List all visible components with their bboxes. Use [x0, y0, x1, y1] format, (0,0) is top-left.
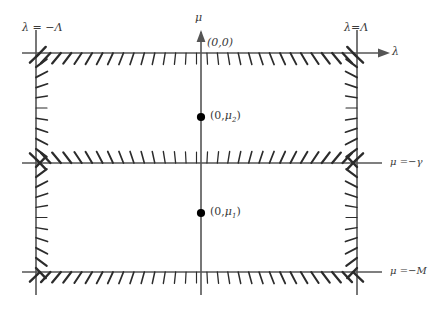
lambda-axis-label: λ: [392, 46, 399, 57]
hatch-tick: [36, 84, 48, 88]
hatch-tick: [280, 53, 285, 64]
hatch-tick: [259, 272, 263, 284]
hatch-tick: [152, 53, 155, 65]
hatch-tick: [185, 272, 186, 283]
hatch-tick: [36, 149, 47, 157]
hatch-tick: [52, 53, 61, 63]
hatch-tick: [36, 59, 47, 67]
hatch-tick: [97, 152, 103, 163]
hatch-tick: [185, 152, 186, 163]
mu-axis-arrowhead: [197, 30, 206, 42]
hatch-tick: [332, 153, 341, 163]
hatch-tick: [36, 139, 47, 145]
hatch-tick: [301, 152, 308, 163]
mu-axis-label: μ: [195, 12, 202, 23]
upper-point-label-prefix: (0,: [210, 109, 225, 122]
hatch-tick: [280, 272, 285, 283]
hatch-tick: [346, 71, 357, 77]
origin-label: (0,0): [207, 37, 233, 48]
hatch-tick: [174, 272, 175, 283]
lower-point-label-prefix: (0,: [210, 205, 225, 218]
upper-point-label-symbol: μ: [225, 109, 232, 122]
hatch-tick: [52, 272, 61, 282]
upper-point-dot: [197, 113, 205, 121]
hatch-tick: [52, 153, 61, 163]
hatch-tick: [36, 181, 47, 187]
hatch-tick: [217, 53, 218, 64]
hatch-tick: [311, 272, 318, 283]
hatch-tick: [259, 151, 263, 163]
hatch-tick: [346, 96, 357, 98]
hatch-tick: [63, 53, 71, 64]
hatch-tick: [346, 149, 357, 157]
hatch-tick: [36, 206, 47, 208]
hatch-tick: [332, 272, 341, 282]
hatch-tick: [332, 53, 341, 63]
hatch-tick: [249, 53, 252, 65]
hatch-tick: [322, 272, 330, 283]
hatch-tick: [322, 152, 330, 163]
hatch-tick: [346, 169, 357, 177]
boundary-lines: [22, 30, 382, 295]
hatch-tick: [63, 152, 71, 163]
hatch-tick: [322, 53, 330, 64]
hatch-tick: [346, 206, 357, 208]
hatch-tick: [119, 151, 124, 163]
hatch-tick: [249, 272, 252, 284]
left-boundary-label: λ = −Λ: [22, 22, 62, 33]
hatch-tick: [30, 272, 40, 282]
hatch-tick: [238, 151, 241, 163]
hatch-tick: [97, 272, 103, 283]
hatch-tick: [207, 272, 208, 283]
hatch-tick: [217, 152, 218, 163]
upper-point-label: (0,μ2): [210, 110, 241, 124]
hatch-tick: [346, 139, 357, 145]
hatch-tick: [36, 193, 48, 197]
hatch-tick: [347, 47, 357, 57]
hatch-tick: [185, 53, 186, 64]
hatch-tick: [36, 228, 47, 230]
hatch-tick: [36, 258, 47, 266]
hatch-tick: [280, 152, 285, 163]
hatch-tick: [228, 272, 230, 283]
hatch-tick: [345, 193, 357, 197]
hatch-tick: [108, 53, 113, 64]
hatch-tick: [346, 118, 357, 120]
hatch-tick: [163, 272, 165, 283]
hatch-tick: [163, 53, 165, 64]
hatch-tick: [301, 272, 308, 283]
hatch-tick: [290, 53, 296, 64]
hatch-tick: [345, 84, 357, 88]
hatch-tick: [86, 152, 93, 163]
hatch-tick: [290, 272, 296, 283]
hatch-tick: [174, 53, 175, 64]
hatch-tick: [346, 248, 357, 254]
hatch-tick: [36, 47, 46, 57]
hatch-tick: [163, 152, 165, 163]
hatch-tick: [36, 96, 47, 98]
hatch-tick: [228, 53, 230, 64]
hatch-tick: [36, 118, 47, 120]
hatch-tick: [130, 151, 134, 163]
hatch-tick: [259, 53, 263, 65]
gamma-boundary-label: μ =−γ: [390, 157, 422, 167]
hatch-tick: [36, 128, 48, 132]
hatch-tick: [141, 272, 144, 284]
figure-canvas: λ = −Λ λ=Λ μ λ (0,0) (0,μ2) (0,μ1) μ =−γ…: [0, 0, 437, 309]
hatch-tick: [249, 151, 252, 163]
upper-point-label-suffix: ): [236, 109, 240, 122]
bottom-boundary-label: μ =−M: [390, 266, 427, 276]
hatch-tick: [74, 152, 81, 163]
hatch-tick: [346, 181, 357, 187]
hatch-tick: [119, 272, 124, 284]
hatch-tick: [108, 272, 113, 283]
hatch-tick: [141, 53, 144, 65]
hatch-tick: [311, 53, 318, 64]
hatch-tick: [238, 53, 241, 65]
hatch-tick: [311, 152, 318, 163]
hatch-tick: [345, 128, 357, 132]
hatch-tick: [217, 272, 218, 283]
lower-point-label-suffix: ): [236, 205, 240, 218]
hatch-tick: [174, 152, 175, 163]
hatch-marks: [30, 47, 363, 284]
